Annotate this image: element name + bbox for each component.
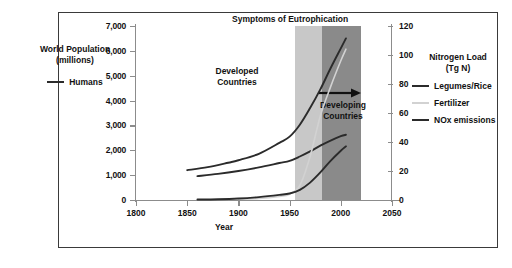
y-tick-label-left: 3,000	[66, 120, 126, 130]
y-tick-label-right: 80	[399, 79, 429, 89]
x-tick	[341, 201, 342, 206]
y-tick-label-right: 60	[399, 108, 429, 118]
y-tick-left	[130, 26, 135, 27]
y-tick-left	[130, 150, 135, 151]
y-tick-left	[130, 76, 135, 77]
x-tick-label: 1850	[167, 208, 207, 218]
legend-label-legumes-rice: Legumes/Rice	[434, 81, 492, 91]
arrow-right-icon	[318, 88, 362, 98]
annotation-developed-line2: Countries	[206, 77, 268, 88]
band-title: Symptoms of Eutrophication	[232, 14, 348, 24]
right-legend-title-line2: (Tg N)	[412, 63, 504, 74]
x-tick	[136, 201, 137, 206]
annotation-developing-line1: Developing	[313, 100, 373, 111]
chart-page: World Population (millions) Humans Nitro…	[0, 0, 512, 268]
y-tick-label-right: 0	[399, 195, 429, 205]
annotation-developed-countries: Developed Countries	[206, 66, 268, 88]
x-tick-label: 1800	[116, 208, 156, 218]
y-tick-label-right: 40	[399, 137, 429, 147]
y-tick-label-left: 7,000	[66, 21, 126, 31]
x-tick	[238, 201, 239, 206]
y-tick-label-left: 6,000	[66, 46, 126, 56]
x-tick	[290, 201, 291, 206]
x-tick	[392, 201, 393, 206]
x-tick-label: 1950	[270, 208, 310, 218]
y-tick-right	[388, 84, 393, 85]
x-tick-label: 2050	[372, 208, 412, 218]
y-tick-left	[130, 125, 135, 126]
x-tick-label: 1900	[218, 208, 258, 218]
y-tick-left	[130, 101, 135, 102]
x-tick	[187, 201, 188, 206]
left-axis-title-line2: (millions)	[22, 55, 128, 66]
annotation-developing-line2: Countries	[313, 111, 373, 122]
legend-label-fertilizer: Fertilizer	[434, 98, 469, 108]
y-tick-right	[388, 26, 393, 27]
x-axis-title: Year	[215, 222, 233, 232]
y-tick-label-right: 100	[399, 50, 429, 60]
y-tick-label-left: 1,000	[66, 170, 126, 180]
annotation-developed-line1: Developed	[206, 66, 268, 77]
y-tick-left	[130, 51, 135, 52]
y-tick-left	[130, 175, 135, 176]
annotation-developing-countries: Developing Countries	[313, 100, 373, 122]
y-tick-label-right: 20	[399, 166, 429, 176]
y-tick-label-left: 2,000	[66, 145, 126, 155]
nox-emissions-line-swatch	[412, 119, 429, 122]
y-tick-right	[388, 171, 393, 172]
y-tick-label-left: 0	[66, 195, 126, 205]
y-axis-left	[135, 24, 136, 202]
y-tick-left	[130, 200, 135, 201]
humans-line-swatch	[47, 81, 64, 84]
y-tick-right	[388, 113, 393, 114]
x-axis	[136, 200, 400, 201]
legend-item-fertilizer: Fertilizer	[412, 98, 504, 108]
y-tick-right	[388, 55, 393, 56]
x-tick-label: 2000	[321, 208, 361, 218]
y-tick-right	[388, 142, 393, 143]
legend-label-nox-emissions: NOx emissions	[434, 115, 495, 125]
y-tick-label-right: 120	[399, 21, 429, 31]
y-tick-label-left: 4,000	[66, 96, 126, 106]
fertilizer-line-swatch	[412, 102, 429, 104]
y-tick-label-left: 5,000	[66, 71, 126, 81]
